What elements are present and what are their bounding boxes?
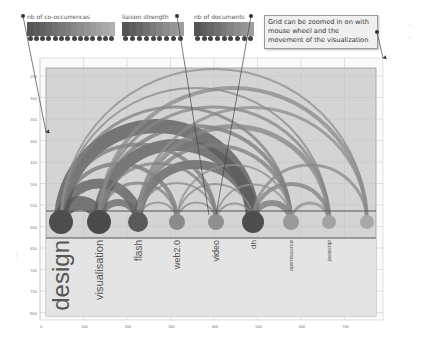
node-label: web2.0 <box>172 240 182 270</box>
x-tick-label: 0 <box>40 324 43 329</box>
x-tick-label: 600 <box>299 324 306 329</box>
y-tick-label: 450 <box>30 160 37 165</box>
node-opensource[interactable] <box>283 214 299 230</box>
x-tick-label: 300 <box>168 324 175 329</box>
node-dh[interactable] <box>242 211 264 233</box>
node-unlabeled[interactable] <box>360 215 374 229</box>
arc-diagram[interactable]: designvisualisationflashweb2.0videodhope… <box>0 0 431 342</box>
node-label: dh <box>249 240 258 249</box>
y-tick-label: 700 <box>30 268 37 273</box>
node-label: visualisation <box>93 240 105 300</box>
y-tick-label: 300 <box>30 96 37 101</box>
node-visualisation[interactable] <box>87 210 111 234</box>
y-tick-label: 350 <box>30 117 37 122</box>
y-tick-label: 550 <box>30 203 37 208</box>
pointer-note <box>377 32 383 58</box>
x-tick-label: 700 <box>342 324 349 329</box>
y-tick-label: 400 <box>30 139 37 144</box>
node-label: design <box>47 240 74 311</box>
y-tick-label: 650 <box>30 246 37 251</box>
node-label: flash <box>133 240 144 261</box>
node-label: javascript <box>326 239 332 262</box>
node-design[interactable] <box>49 210 73 234</box>
y-tick-label: 500 <box>30 182 37 187</box>
node-video[interactable] <box>208 214 224 230</box>
x-tick-label: 400 <box>212 324 219 329</box>
node-label: video <box>211 240 221 262</box>
node-javascript[interactable] <box>322 215 336 229</box>
x-tick-label: 200 <box>125 324 132 329</box>
node-flash[interactable] <box>128 212 148 232</box>
y-tick-label: 250 <box>30 74 37 79</box>
node-label: opensource <box>288 239 294 271</box>
x-tick-label: 100 <box>81 324 88 329</box>
y-tick-label: 800 <box>30 311 37 316</box>
node-web2.0[interactable] <box>169 214 185 230</box>
y-tick-label: 750 <box>30 289 37 294</box>
x-tick-label: 500 <box>255 324 262 329</box>
y-tick-label: 600 <box>30 225 37 230</box>
